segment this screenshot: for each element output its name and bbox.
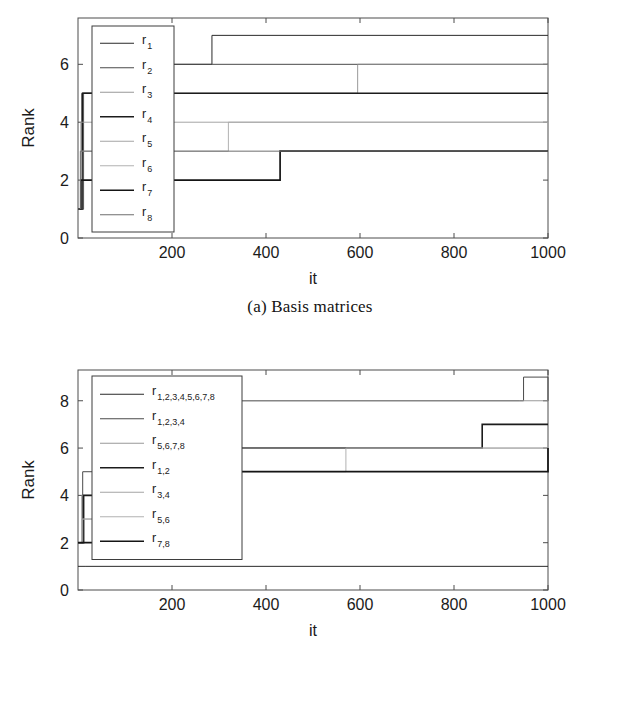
legend-box <box>92 26 174 232</box>
x-tick-label: 600 <box>347 596 374 613</box>
panel-transfer-matrices: 200400600800100002468itRankr1,2,3,4,5,6,… <box>0 348 620 712</box>
x-tick-label: 600 <box>347 244 374 261</box>
x-tick-label: 800 <box>441 244 468 261</box>
y-axis-title: Rank <box>19 108 38 148</box>
y-tick-label: 2 <box>60 535 69 552</box>
x-tick-label: 400 <box>253 244 280 261</box>
chart-b-canvas: 200400600800100002468itRankr1,2,3,4,5,6,… <box>0 348 620 648</box>
chart-transfer-matrices: 200400600800100002468itRankr1,2,3,4,5,6,… <box>0 348 620 648</box>
figure-page: 20040060080010000246itRankr1r2r3r4r5r6r7… <box>0 0 620 712</box>
y-tick-label: 6 <box>60 56 69 73</box>
x-tick-label: 800 <box>441 596 468 613</box>
y-tick-label: 0 <box>60 230 69 247</box>
x-tick-label: 1000 <box>530 244 566 261</box>
y-tick-label: 8 <box>60 393 69 410</box>
x-tick-label: 200 <box>159 596 186 613</box>
y-tick-label: 2 <box>60 172 69 189</box>
y-axis-title: Rank <box>19 460 38 500</box>
x-tick-label: 400 <box>253 596 280 613</box>
x-tick-label: 200 <box>159 244 186 261</box>
caption-panel-a: (a) Basis matrices <box>0 297 620 317</box>
y-tick-label: 4 <box>60 487 69 504</box>
y-tick-label: 0 <box>60 582 69 599</box>
x-axis-title: it <box>309 270 318 287</box>
x-axis-title: it <box>309 622 318 639</box>
y-tick-label: 6 <box>60 440 69 457</box>
chart-a-canvas: 20040060080010000246itRankr1r2r3r4r5r6r7… <box>0 0 620 290</box>
panel-basis-matrices: 20040060080010000246itRankr1r2r3r4r5r6r7… <box>0 0 620 330</box>
x-tick-label: 1000 <box>530 596 566 613</box>
chart-basis-matrices: 20040060080010000246itRankr1r2r3r4r5r6r7… <box>0 0 620 290</box>
y-tick-label: 4 <box>60 114 69 131</box>
